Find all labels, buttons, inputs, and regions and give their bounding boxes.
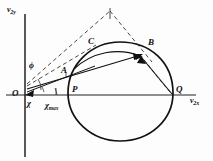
y-axis-label: v2y (7, 6, 16, 14)
angle-label-phi: ϕ (29, 61, 34, 70)
angle-label-chi-max: χmax (45, 101, 59, 110)
velocity-locus-curve (68, 42, 173, 141)
scattering-velocity-diagram: v2y v2x O P Q A B C ϕ χ χmax (0, 0, 213, 161)
vector-Q-to-B (137, 56, 172, 94)
axes-group (6, 14, 196, 157)
x-axis-label-sub: 2x (193, 100, 199, 106)
point-label-P: P (72, 85, 78, 94)
angle-label-chi: χ (27, 99, 31, 108)
point-label-B: B (148, 38, 154, 47)
point-label-Q: Q (176, 85, 183, 94)
arc-chi (42, 87, 44, 92)
point-label-A: A (61, 66, 67, 75)
y-axis-label-sub: 2y (10, 9, 16, 15)
arc-phi (38, 79, 41, 90)
dashed-construction-lines (27, 11, 152, 86)
vector-O-to-B (27, 54, 143, 89)
dashed-line-apex-to-B (110, 11, 152, 62)
point-label-O: O (12, 89, 19, 98)
point-label-C: C (88, 37, 94, 46)
x-axis-label: v2x (190, 97, 200, 105)
diagram-canvas (0, 0, 213, 161)
chi-max-subscript: max (49, 105, 59, 111)
arc-arrow-C-to-B (74, 52, 143, 69)
